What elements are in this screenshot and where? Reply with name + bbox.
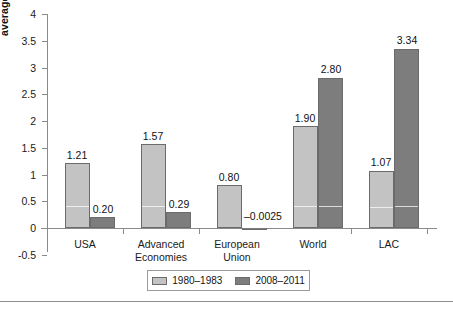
bar-lac-1980-1983 xyxy=(369,171,394,228)
y-tick-label-2: 2 xyxy=(30,116,36,127)
bar-value-european-union-1980-1983: 0.80 xyxy=(219,172,239,183)
legend-label-1980-1983: 1980–1983 xyxy=(172,276,222,286)
category-label-advanced-economies: Advanced Economies xyxy=(135,238,187,263)
category-label-lac-line1: LAC xyxy=(379,238,399,251)
bar-group-usa: 1.21 0.20 USA xyxy=(47,12,123,252)
legend-swatch-2008-2011 xyxy=(235,277,250,285)
bar-group-world: 1.90 2.80 World xyxy=(275,12,351,252)
bar-european-union-1980-1983 xyxy=(217,185,242,228)
scan-artifact xyxy=(319,206,342,207)
gdp-growth-bar-chart-figure: average annual GDP growth rates 4 3.5 3 … xyxy=(0,0,453,314)
category-label-lac: LAC xyxy=(379,238,399,251)
bar-european-union-2008-2011 xyxy=(242,228,267,230)
category-label-usa: USA xyxy=(74,238,96,251)
category-label-advanced-economies-line1: Advanced xyxy=(135,238,187,251)
y-tick-neg0_5: -0.5 xyxy=(42,255,47,256)
category-label-european-union-line2: Union xyxy=(214,251,260,264)
category-label-european-union-line1: European xyxy=(214,238,260,251)
bar-usa-2008-2011 xyxy=(90,217,115,228)
bar-advanced-economies-2008-2011 xyxy=(166,212,191,228)
bar-value-usa-2008-2011: 0.20 xyxy=(93,204,113,215)
category-label-usa-line1: USA xyxy=(74,238,96,251)
y-tick-label-4: 4 xyxy=(30,9,36,20)
scan-artifact xyxy=(370,207,393,208)
scan-artifact xyxy=(395,206,418,207)
legend-entry-2008-2011: 2008–2011 xyxy=(235,276,304,286)
bar-value-lac-2008-2011: 3.34 xyxy=(397,35,417,46)
bar-value-world-1980-1983: 1.90 xyxy=(295,113,315,124)
y-tick-label-neg0_5: -0.5 xyxy=(18,250,36,261)
y-axis-title: average annual GDP growth rates xyxy=(0,0,10,36)
category-label-world-line1: World xyxy=(299,238,326,251)
page-bottom-rule xyxy=(0,301,453,302)
category-label-world: World xyxy=(299,238,326,251)
bar-group-advanced-economies: 1.57 0.29 Advanced Economies xyxy=(123,12,199,252)
y-tick-label-1_5: 1.5 xyxy=(21,143,36,154)
y-tick-label-1: 1 xyxy=(30,169,36,180)
legend-swatch-1980-1983 xyxy=(152,277,167,285)
bar-lac-2008-2011 xyxy=(394,49,419,228)
x-tick-5 xyxy=(427,229,428,234)
y-tick-label-0: 0 xyxy=(30,223,36,234)
category-label-european-union: European Union xyxy=(214,238,260,263)
bar-value-lac-1980-1983: 1.07 xyxy=(371,157,391,168)
legend-entry-1980-1983: 1980–1983 xyxy=(152,276,222,286)
category-label-advanced-economies-line2: Economies xyxy=(135,251,187,264)
bar-value-usa-1980-1983: 1.21 xyxy=(67,150,87,161)
bar-advanced-economies-1980-1983 xyxy=(141,144,166,228)
scan-artifact xyxy=(142,206,165,207)
bar-group-lac: 1.07 3.34 LAC xyxy=(351,12,427,252)
y-tick-label-3_5: 3.5 xyxy=(21,36,36,47)
bar-value-advanced-economies-2008-2011: 0.29 xyxy=(169,199,189,210)
legend-label-2008-2011: 2008–2011 xyxy=(255,276,304,286)
y-tick-label-3: 3 xyxy=(30,62,36,73)
bar-value-world-2008-2011: 2.80 xyxy=(321,64,341,75)
bar-value-advanced-economies-1980-1983: 1.57 xyxy=(143,131,163,142)
y-tick-label-0_5: 0.5 xyxy=(21,196,36,207)
bar-group-european-union: 0.80 –0.0025 European Union xyxy=(199,12,275,252)
bar-world-1980-1983 xyxy=(293,126,318,228)
scan-artifact xyxy=(294,206,317,207)
bar-usa-1980-1983 xyxy=(65,163,90,228)
bar-world-2008-2011 xyxy=(318,78,343,228)
scan-artifact xyxy=(66,206,89,207)
chart-legend: 1980–1983 2008–2011 xyxy=(147,270,310,291)
y-tick-label-2_5: 2.5 xyxy=(21,89,36,100)
plot-area: 4 3.5 3 2.5 2 1.5 1 0.5 0 -0.5 xyxy=(47,12,437,252)
